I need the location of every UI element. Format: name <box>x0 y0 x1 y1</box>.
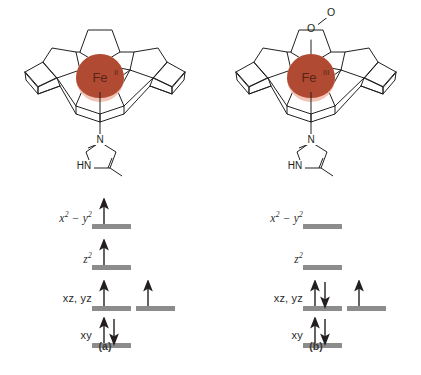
pyrrole-left-side-b <box>236 72 249 94</box>
meso-ll <box>57 78 76 106</box>
pyrrole-right-face-b <box>361 78 383 94</box>
heme-svg-b: O O <box>211 0 421 190</box>
pyrrole-left-edge <box>25 62 57 87</box>
rim-left-in <box>60 86 76 114</box>
pyrrole-left-edge-b <box>236 62 268 87</box>
rim-right <box>150 86 172 94</box>
electron-arrows-xz-b <box>303 280 342 310</box>
pyrrole-right-edge-b <box>364 62 396 87</box>
electron-arrows-xz-a <box>92 280 131 310</box>
pyrrole-left-side <box>25 72 38 94</box>
rim-right-in-b <box>335 86 361 114</box>
pyrrole-right <box>130 48 167 78</box>
orbital-bar-x2y2-b <box>303 224 342 229</box>
orbital-bar-z2-b <box>303 265 342 270</box>
orbital-diagram-b: x2 − y2 x² − y² z2 z² xz, yz <box>211 186 421 351</box>
orbital-label-z2-b: z2 <box>294 251 303 265</box>
orbital-label-z2-a: z2 <box>83 251 92 265</box>
imidazole-hn-label-a: HN <box>77 160 91 171</box>
orbital-level-z2-b: z2 z² <box>211 241 421 275</box>
oxygen-upper-label: O <box>327 6 335 18</box>
rim-left-b <box>249 86 271 94</box>
rim-right-b <box>361 86 383 94</box>
panel-caption-b: (b) <box>211 340 421 352</box>
oxygen-lower-label: O <box>307 22 315 34</box>
orbital-level-x2y2-b: x2 − y2 x² − y² <box>211 200 421 234</box>
imidazole-methyl-a <box>110 168 122 176</box>
electron-arrows-yz-a <box>136 280 175 310</box>
pyrrole-left-b <box>254 48 291 78</box>
orbital-level-xzyz-a: xz, yz <box>0 282 210 316</box>
orbital-label-x2y2-a: x2 − y2 <box>59 210 92 224</box>
electron-arrows-z2-a <box>92 239 131 269</box>
rim-right-in <box>124 86 150 114</box>
pyrrole-left-face <box>38 78 60 94</box>
meso-rr-b <box>335 78 364 106</box>
meso-rr <box>124 78 153 106</box>
orbital-level-xzyz-b: xz, yz <box>211 282 421 316</box>
imidazole-hn-label-b: HN <box>288 160 302 171</box>
orbital-level-z2-a: z2 z² <box>0 241 210 275</box>
orbital-label-xzyz-a: xz, yz <box>63 292 92 304</box>
heme-structure-b: O O <box>211 0 421 190</box>
pyrrole-left <box>43 48 80 78</box>
electron-arrows-yz-b <box>347 280 386 310</box>
pyrrole-right-edge <box>153 62 185 87</box>
panel-caption-a: (a) <box>0 340 210 352</box>
panel-a: Fe II N HN x2 − y2 x² − y² <box>0 0 210 375</box>
heme-structure-a: Fe II N HN <box>0 0 210 190</box>
electron-arrows-x2y2-a <box>92 198 131 228</box>
iron-label-b: Fe <box>301 70 316 85</box>
pyrrole-right-b <box>341 48 378 78</box>
rim-left-in-b <box>271 86 287 114</box>
panel-b: O O <box>211 0 421 375</box>
meso-ll-b <box>268 78 287 106</box>
imidazole-n-label-b: N <box>307 134 314 145</box>
iron-label-a: Fe <box>92 70 107 85</box>
pyrrole-right-side-b <box>383 72 396 94</box>
imidazole-n-label-a: N <box>96 134 103 145</box>
rim-left <box>38 86 60 94</box>
pyrrole-right-side <box>172 72 185 94</box>
heme-svg-a: Fe II N HN <box>0 0 210 190</box>
orbital-level-x2y2-a: x2 − y2 x² − y² <box>0 200 210 234</box>
iron-oxidation-label-b: III <box>323 68 329 77</box>
pyrrole-left-face-b <box>249 78 271 94</box>
orbital-label-xzyz-b: xz, yz <box>274 292 303 304</box>
imidazole-methyl-b <box>321 168 333 176</box>
orbital-label-x2y2-b: x2 − y2 <box>270 210 303 224</box>
orbital-diagram-a: x2 − y2 x² − y² z2 z² <box>0 186 210 351</box>
iron-oxidation-label-a: II <box>114 68 118 77</box>
pyrrole-right-face <box>150 78 172 94</box>
